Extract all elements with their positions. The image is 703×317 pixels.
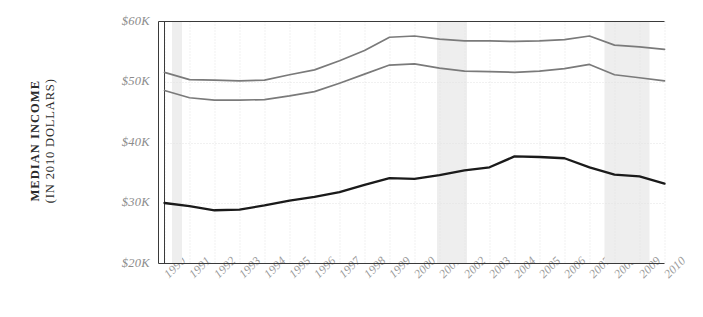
vertical-gridlines-group — [165, 22, 665, 264]
recession-band — [437, 22, 467, 264]
axis-lines-group — [159, 22, 665, 264]
recession-band — [172, 22, 182, 264]
recession-band — [605, 22, 650, 264]
recession-bands-group — [172, 22, 650, 264]
plot-area — [0, 0, 703, 317]
chart-container: MEDIAN INCOME (IN 2010 DOLLARS) $20K$30K… — [0, 0, 703, 317]
